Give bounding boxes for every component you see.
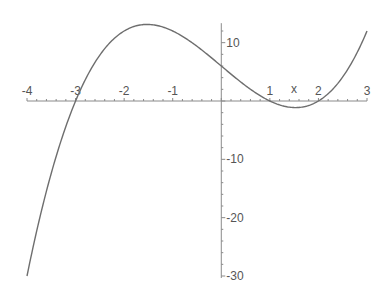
x-tick-label: -2 <box>119 84 130 98</box>
x-tick-label: -1 <box>167 84 178 98</box>
x-tick-label: 2 <box>315 84 322 98</box>
x-tick-label: -4 <box>22 84 33 98</box>
x-tick-label: 1 <box>267 84 274 98</box>
tick-labels: -4-3-2-112310-10-20-30 <box>22 36 371 283</box>
y-tick-label: -10 <box>226 152 244 166</box>
y-tick-label: 10 <box>226 36 240 50</box>
x-tick-label: 3 <box>364 84 371 98</box>
function-curve <box>27 24 367 276</box>
y-tick-label: -20 <box>226 211 244 225</box>
axes <box>27 23 367 278</box>
y-tick-label: -30 <box>226 269 244 283</box>
x-axis-label: x <box>291 82 297 96</box>
function-plot: -4-3-2-112310-10-20-30 x <box>0 0 389 298</box>
